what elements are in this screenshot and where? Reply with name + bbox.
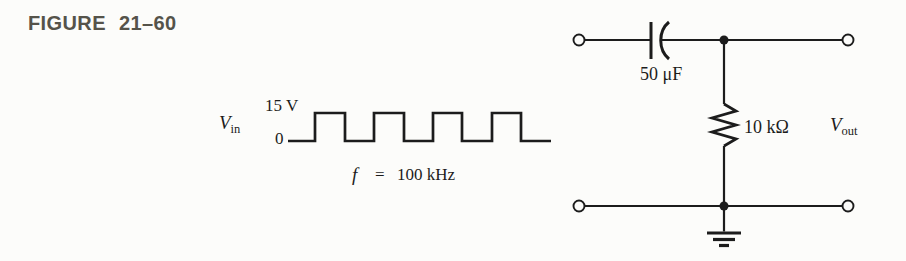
output-terminal-top: [843, 35, 854, 46]
circuit-drawing: [574, 22, 854, 246]
square-wave-trace: [288, 113, 551, 141]
output-terminal-bottom: [843, 201, 854, 212]
capacitor-value-label: 50 μF: [640, 64, 682, 84]
input-terminal-bottom: [574, 201, 585, 212]
resistor-value-label: 10 kΩ: [744, 117, 789, 137]
junction-dot-top: [720, 36, 729, 45]
waveform-high-label: 15 V: [265, 96, 299, 115]
frequency-label: f = 100 kHz: [352, 164, 456, 185]
vin-label: Vin: [219, 112, 241, 136]
figure-container: FIGURE 21–60: [0, 0, 906, 261]
waveform-drawing: [288, 113, 551, 141]
vout-label: Vout: [830, 114, 858, 138]
waveform-low-label: 0: [275, 129, 284, 148]
figure-diagram: Vin 15 V 0 f = 100 kHz 50 μF 10 kΩ Vout: [0, 0, 906, 261]
junction-dot-bottom: [720, 202, 729, 211]
resistor-zigzag: [712, 104, 736, 146]
input-terminal-top: [574, 35, 585, 46]
